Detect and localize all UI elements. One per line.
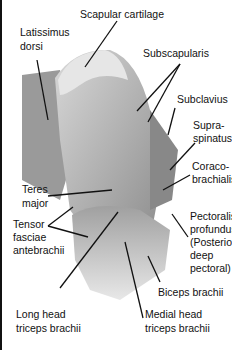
label-pectoral-line4: deep [190,249,213,261]
label-medial-head-line1: Medial head [145,308,202,320]
label-latissimus-line1: Latissimus [20,26,70,38]
label-pectoral-line1: Pectoralis [190,210,232,222]
label-latissimus-line2: dorsi [20,40,43,52]
label-tensor-line2: fasciae [13,231,46,243]
label-teres-line2: major [22,197,48,209]
label-long-head-line1: Long head [16,308,66,320]
label-pectoral-line3: (Posterior [190,236,232,248]
label-pectoral-line2: profundus [190,223,232,235]
label-pectoral-line5: pectoral) [190,262,231,274]
label-scapular-cartilage: Scapular cartilage [80,8,164,20]
label-supraspinatus-line1: Supra- [193,119,225,131]
label-medial-head-line2: triceps brachii [145,322,210,334]
label-tensor-line1: Tensor [13,218,45,230]
label-biceps-brachii: Biceps brachii [158,286,223,298]
label-tensor-line3: antebrachii [13,244,64,256]
label-subclavius: Subclavius [177,93,228,105]
label-long-head-line2: triceps brachii [16,322,81,334]
label-supraspinatus-line2: spinatus [193,132,232,144]
label-coracobrachialis-line1: Coraco- [192,160,229,172]
label-teres-line1: Teres [22,183,48,195]
label-subscapularis: Subscapularis [143,47,209,59]
label-coracobrachialis-line2: brachialis [192,173,232,185]
